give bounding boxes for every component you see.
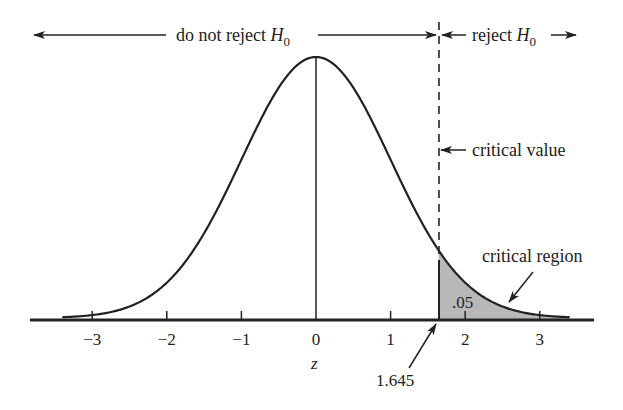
x-tick-label: 1 <box>386 330 395 349</box>
x-tick-label: −3 <box>83 330 101 349</box>
do-not-reject-label: do not reject H0 <box>176 25 290 49</box>
critical-value-number: 1.645 <box>376 371 414 390</box>
normal-distribution-chart: −3−2−10123 do not reject H0 reject H0 cr… <box>0 0 623 410</box>
x-tick-label: −2 <box>158 330 176 349</box>
x-tick-label: 0 <box>312 330 321 349</box>
x-axis-label: z <box>310 354 318 373</box>
area-label: .05 <box>452 293 473 312</box>
x-tick-label: 2 <box>461 330 470 349</box>
reject-label: reject H0 <box>472 25 536 49</box>
critical-point-arrow-icon <box>409 324 436 368</box>
x-tick-label: −1 <box>232 330 250 349</box>
x-tick-label: 3 <box>536 330 545 349</box>
critical-value-label: critical value <box>472 140 565 160</box>
critical-region-label: critical region <box>482 246 582 266</box>
critical-region-arrow-icon <box>509 272 533 302</box>
